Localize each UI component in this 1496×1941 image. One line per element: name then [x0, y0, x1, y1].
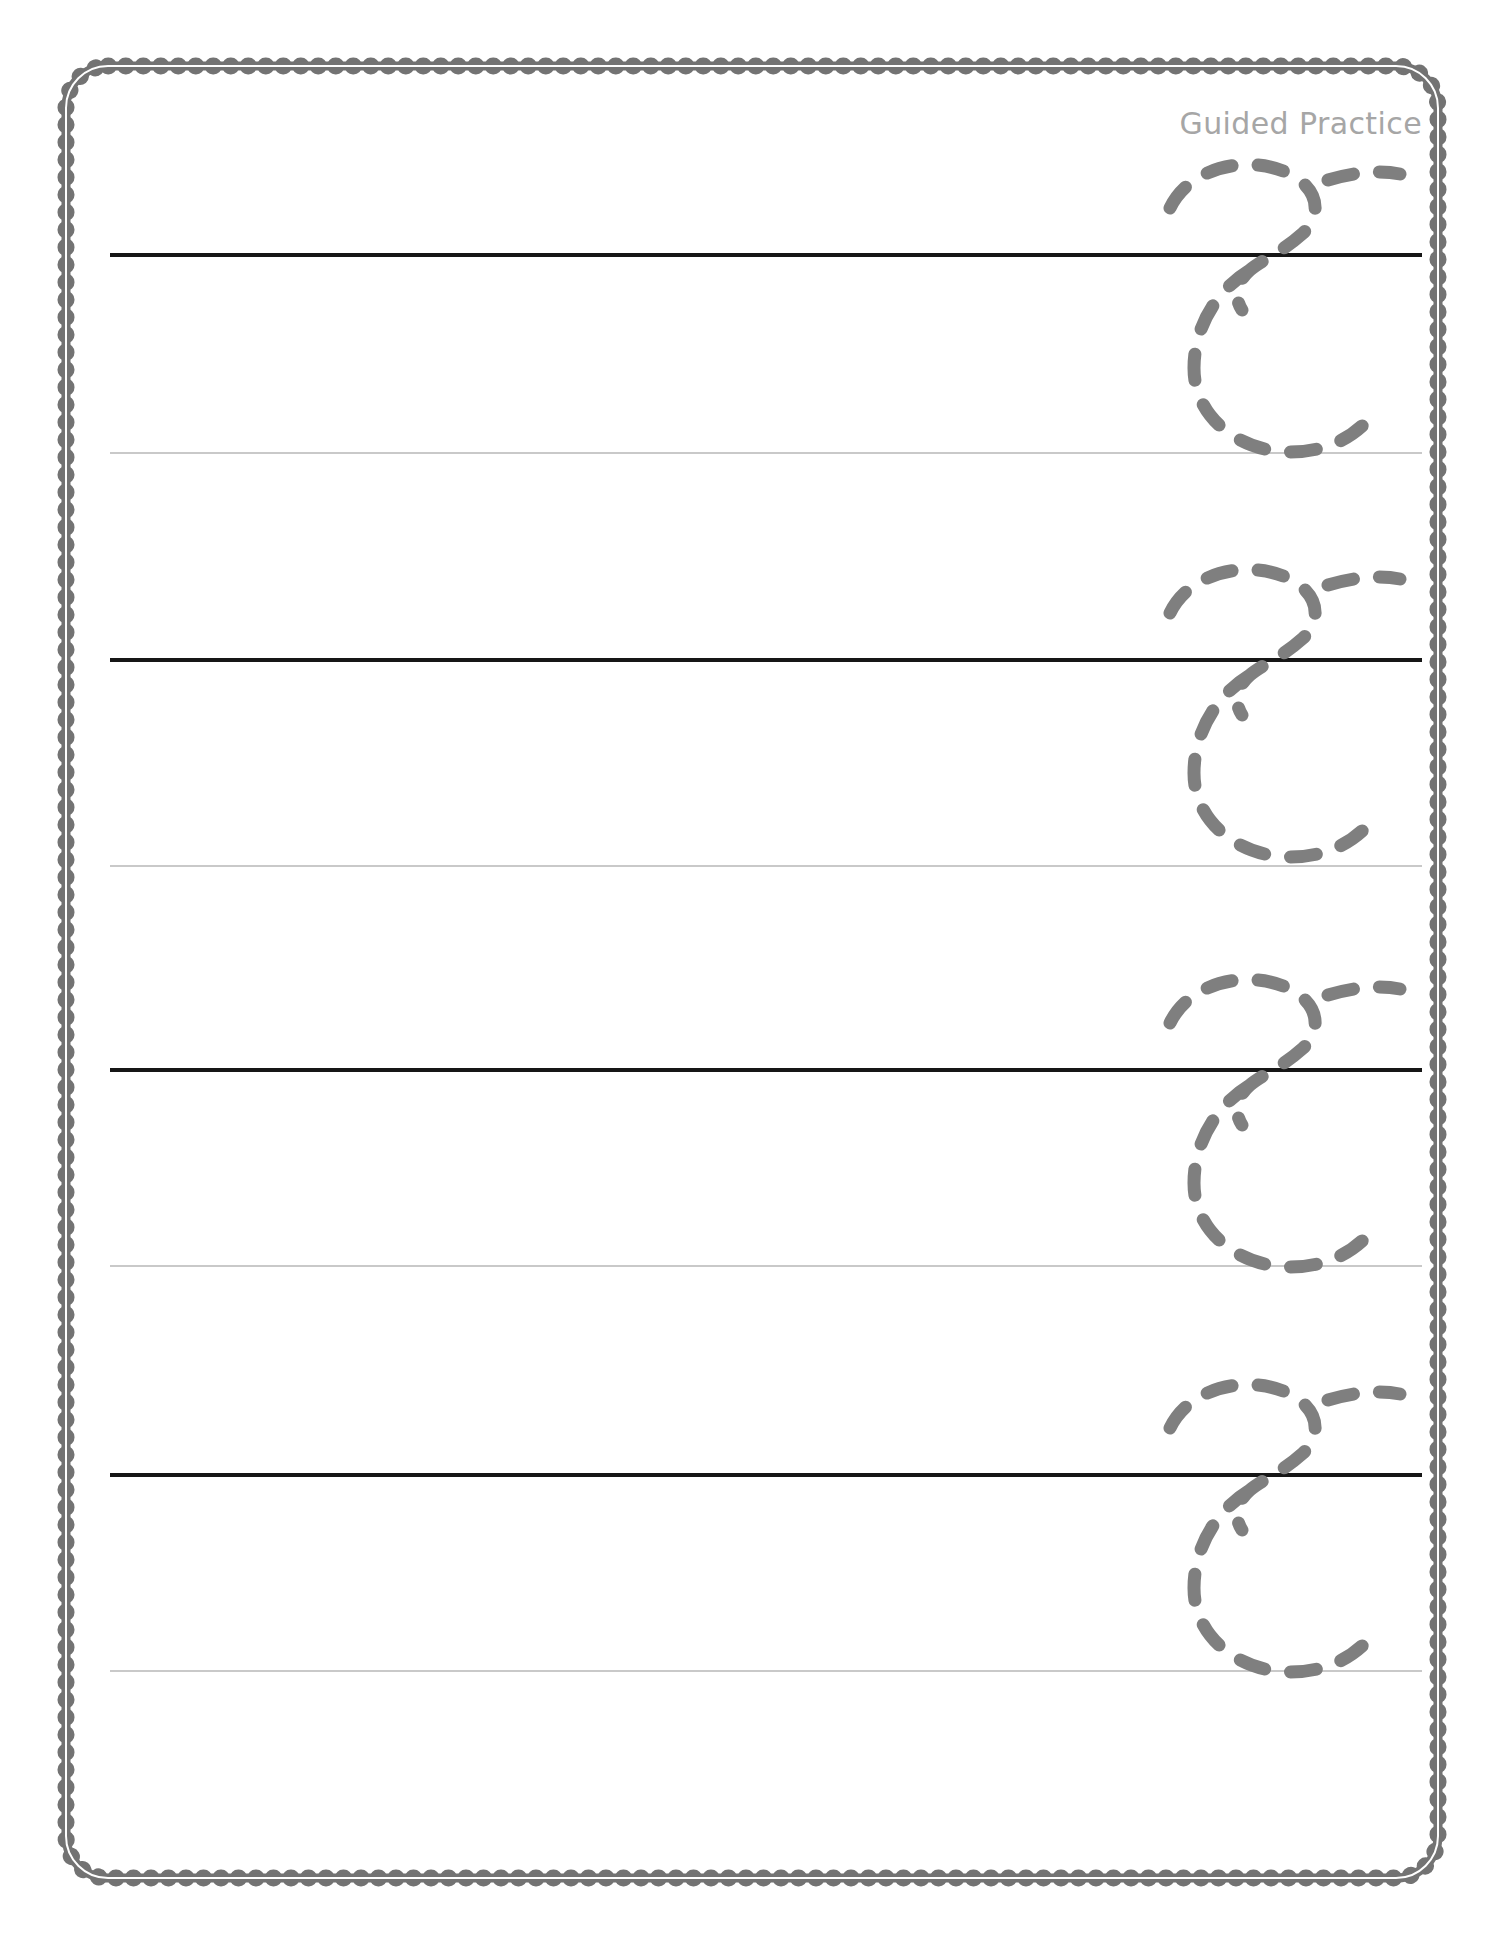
- handwriting-baseline: [110, 1265, 1422, 1267]
- trace-letter-c: [1132, 545, 1432, 885]
- worksheet-header: Guided Practice: [110, 106, 1422, 141]
- handwriting-midline: [110, 253, 1422, 257]
- border-scallops: [66, 66, 1438, 1878]
- handwriting-baseline: [110, 1670, 1422, 1672]
- page-title: Guided Practice: [1180, 106, 1423, 141]
- trace-letter-c: [1132, 955, 1432, 1295]
- border-inner-edge: [66, 66, 1438, 1878]
- scalloped-border: [62, 62, 1442, 1882]
- trace-stroke-path: [1170, 165, 1400, 452]
- trace-stroke-path: [1170, 570, 1400, 857]
- handwriting-baseline: [110, 452, 1422, 454]
- trace-letter-c: [1132, 140, 1432, 480]
- handwriting-midline: [110, 1473, 1422, 1477]
- worksheet-page: Guided Practice: [0, 0, 1496, 1941]
- handwriting-midline: [110, 1068, 1422, 1072]
- border-frame-line: [66, 66, 1438, 1878]
- trace-letter-c: [1132, 1360, 1432, 1700]
- handwriting-midline: [110, 658, 1422, 662]
- handwriting-baseline: [110, 865, 1422, 867]
- trace-stroke-path: [1170, 1385, 1400, 1672]
- trace-stroke-path: [1170, 980, 1400, 1267]
